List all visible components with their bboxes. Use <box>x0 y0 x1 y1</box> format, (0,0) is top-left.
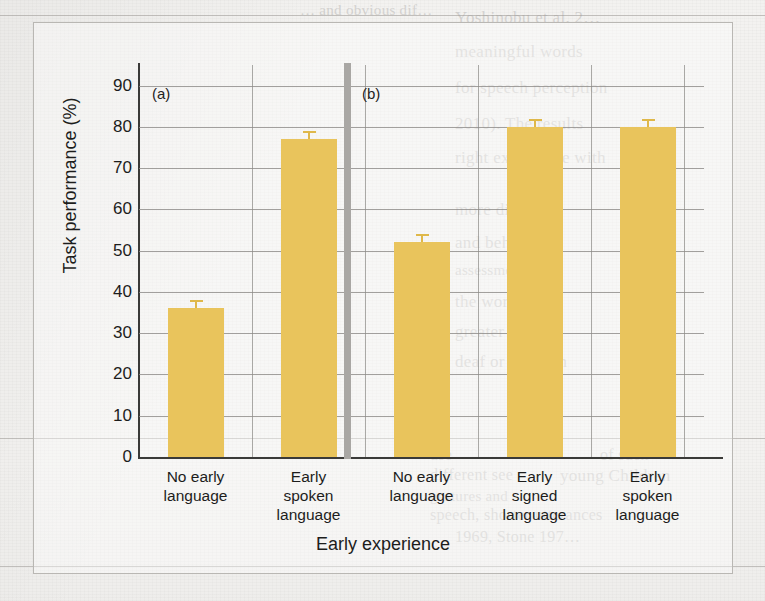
gridline-vertical <box>591 65 592 457</box>
x-tick-label: No earlylanguage <box>136 467 256 505</box>
panel-label-a: (a) <box>152 85 170 102</box>
y-tick-label: 30 <box>98 323 132 343</box>
gridline-vertical <box>684 65 685 457</box>
error-bar-cap <box>529 119 542 121</box>
y-axis-label: Task performance (%) <box>60 71 81 301</box>
error-bar-cap <box>642 119 655 121</box>
y-tick-label: 10 <box>98 406 132 426</box>
bar <box>394 242 450 457</box>
y-tick-label: 50 <box>98 241 132 261</box>
y-axis-ticks: 0102030405060708090 <box>88 65 132 457</box>
bleed-text: … and obvious dif… <box>300 2 432 19</box>
y-tick-label: 20 <box>98 364 132 384</box>
panel-separator <box>344 63 351 459</box>
bar <box>168 308 224 457</box>
plot-area <box>139 65 704 457</box>
y-tick-label: 90 <box>98 76 132 96</box>
error-bar-cap <box>303 131 316 133</box>
gridline-vertical <box>365 65 366 457</box>
gridline-horizontal <box>139 86 704 87</box>
x-tick-label: No earlylanguage <box>362 467 482 505</box>
gridline-vertical <box>478 65 479 457</box>
page-rule <box>0 15 765 16</box>
y-tick-label: 80 <box>98 117 132 137</box>
x-tick-label: Earlyspokenlanguage <box>588 467 708 524</box>
y-tick-label: 40 <box>98 282 132 302</box>
y-tick-label: 70 <box>98 158 132 178</box>
panel-label-b: (b) <box>362 85 380 102</box>
x-tick-label: Earlyspokenlanguage <box>249 467 369 524</box>
x-axis-line <box>138 457 723 459</box>
y-tick-label: 60 <box>98 199 132 219</box>
x-axis-label: Early experience <box>34 534 732 555</box>
bar <box>507 127 563 457</box>
bar <box>281 139 337 457</box>
gridline-vertical <box>252 65 253 457</box>
error-bar-cap <box>416 234 429 236</box>
error-bar-cap <box>190 300 203 302</box>
figure-frame: Task performance (%) 0102030405060708090… <box>33 22 733 574</box>
y-tick-label: 0 <box>98 447 132 467</box>
x-tick-label: Earlysignedlanguage <box>475 467 595 524</box>
bar <box>620 127 676 457</box>
